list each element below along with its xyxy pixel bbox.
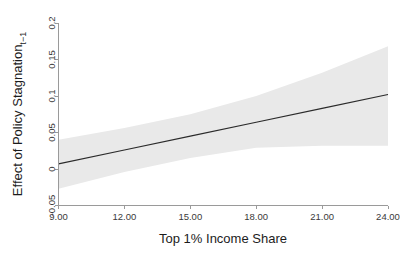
x-tick-label: 24.00 [376,211,400,222]
y-tick-label: 0.1 [46,89,57,102]
y-axis-title-main: Effect of Policy Stagnation [10,45,25,197]
chart-figure: -0.0500.050.10.150.2 9.0012.0015.0018.00… [0,0,409,262]
x-axis-title: Top 1% Income Share [159,231,287,246]
y-tick-label: 0.15 [46,50,57,69]
x-tick-label: 12.00 [113,211,137,222]
x-tick-label: 9.00 [49,211,68,222]
x-tick-label: 18.00 [244,211,268,222]
y-tick-label: 0.05 [46,123,57,142]
x-tick-label: 15.00 [178,211,202,222]
x-tick-label: 21.00 [310,211,334,222]
y-tick-label: 0 [46,166,57,171]
y-axis-title-subscript: t−1 [18,32,28,45]
marginal-effects-plot: -0.0500.050.10.150.2 9.0012.0015.0018.00… [0,0,409,262]
y-tick-label: 0.2 [46,16,57,29]
